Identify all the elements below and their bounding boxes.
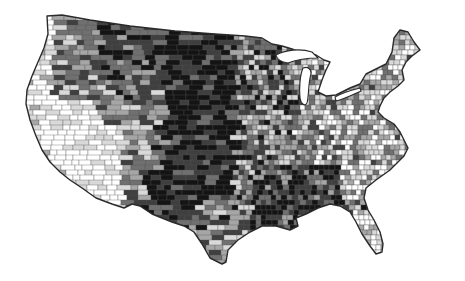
county-cell xyxy=(57,180,67,189)
county-cell xyxy=(298,115,303,120)
county-cell xyxy=(347,15,353,20)
county-cell xyxy=(382,45,388,50)
county-cell xyxy=(251,250,256,255)
county-cell xyxy=(137,265,151,272)
county-cell xyxy=(351,190,356,195)
county-cell xyxy=(101,245,109,252)
county-cell xyxy=(242,145,247,150)
county-cell xyxy=(288,120,293,125)
county-cell xyxy=(271,170,277,175)
county-cell xyxy=(167,245,175,253)
county-cell xyxy=(393,140,398,145)
county-cell xyxy=(315,100,320,105)
county-cell xyxy=(422,100,428,105)
county-cell xyxy=(397,250,403,255)
county-cell xyxy=(425,155,431,160)
county-cell xyxy=(280,135,285,140)
county-cell xyxy=(381,85,387,90)
county-cell xyxy=(236,185,242,190)
county-cell xyxy=(294,100,299,105)
county-cell xyxy=(394,175,400,180)
county-cell xyxy=(196,255,210,264)
county-cell xyxy=(282,10,288,15)
county-cell xyxy=(82,225,95,237)
county-cell xyxy=(333,70,339,75)
county-cell xyxy=(395,55,401,60)
county-cell xyxy=(39,260,50,268)
county-cell xyxy=(361,135,367,140)
county-cell xyxy=(313,260,318,265)
county-cell xyxy=(50,260,58,268)
county-cell xyxy=(29,225,43,236)
county-cell xyxy=(100,210,108,221)
county-cell xyxy=(40,250,52,261)
county-cell xyxy=(81,240,94,247)
county-cell xyxy=(389,150,394,155)
county-cell xyxy=(33,235,41,242)
county-cell xyxy=(236,90,241,95)
county-cell xyxy=(246,90,252,95)
county-cell xyxy=(390,170,395,175)
county-cell xyxy=(20,230,30,240)
county-cell xyxy=(353,245,359,250)
county-cell xyxy=(227,265,239,272)
county-cell xyxy=(423,135,429,140)
county-cell xyxy=(420,75,425,80)
county-cell xyxy=(367,60,372,65)
county-cell xyxy=(276,175,281,180)
county-cell xyxy=(283,185,289,190)
county-cell xyxy=(242,140,248,145)
county-cell xyxy=(126,265,137,277)
county-cell xyxy=(244,265,250,270)
county-cell xyxy=(340,115,345,120)
county-cell xyxy=(292,165,298,170)
county-cell xyxy=(302,135,308,140)
county-cell xyxy=(345,200,350,205)
county-cell xyxy=(346,65,351,70)
county-cell xyxy=(378,190,384,195)
county-cell xyxy=(316,70,321,75)
county-cell xyxy=(417,135,423,140)
county-cell xyxy=(374,10,380,15)
county-cell xyxy=(300,155,305,160)
county-cell xyxy=(255,60,260,65)
county-cell xyxy=(308,230,313,235)
county-cell xyxy=(289,20,295,25)
county-cell xyxy=(271,200,277,205)
county-cell xyxy=(276,195,281,200)
county-cell xyxy=(403,85,408,90)
county-cell xyxy=(270,145,275,150)
county-cell xyxy=(20,25,31,37)
county-cell xyxy=(267,210,272,215)
county-cell xyxy=(356,70,362,75)
county-cell xyxy=(290,155,295,160)
county-cell xyxy=(341,165,347,170)
county-cell xyxy=(93,255,100,267)
county-cell xyxy=(58,240,72,247)
county-cell xyxy=(410,140,416,145)
county-cell xyxy=(390,145,395,150)
county-cell xyxy=(269,130,275,135)
county-cell xyxy=(270,230,276,235)
county-cell xyxy=(376,200,382,205)
county-cell xyxy=(376,245,381,250)
county-cell xyxy=(267,100,272,105)
county-cell xyxy=(267,155,272,160)
county-cell xyxy=(52,245,66,252)
county-cell xyxy=(400,115,406,120)
county-cell xyxy=(237,45,243,50)
county-cell xyxy=(170,235,181,243)
county-cell xyxy=(151,230,160,239)
county-cell xyxy=(310,80,315,85)
county-cell xyxy=(394,100,400,105)
county-cell xyxy=(272,110,278,115)
county-cell xyxy=(20,60,29,72)
county-cell xyxy=(297,175,302,180)
county-cell xyxy=(20,225,29,234)
county-cell xyxy=(259,195,265,200)
county-cell xyxy=(309,180,315,185)
county-cell xyxy=(71,195,83,202)
county-cell xyxy=(382,235,388,240)
county-cell xyxy=(334,225,340,230)
county-cell xyxy=(305,265,310,270)
